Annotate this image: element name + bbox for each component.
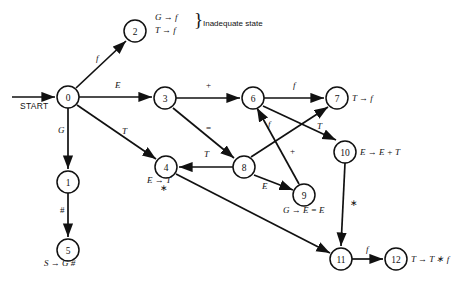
production-state-5: S → G # [44,258,75,268]
edge-label-4-star: ∗ [160,184,168,193]
brace-glyph: } [194,10,203,29]
node-label-10: 10 [340,148,350,158]
edge-label-3-plus: + [206,81,211,90]
edge-label-0-G: G [58,126,65,135]
node-label-11: 11 [336,255,345,265]
edge-label-0-E: E [115,81,121,90]
production-state-10: E → E + T [360,147,400,157]
edge-6-10 [263,106,336,140]
production-state-9: G → E = E [283,205,325,215]
diagram-svg: 0 1 2 3 4 5 6 7 8 9 10 11 12 [0,0,456,283]
edge-label-8-f: f [268,120,271,129]
edge-10-11 [341,163,345,246]
edge-label-3-eq: = [206,124,211,133]
inadequate-production-2: T → f [155,25,176,35]
edge-label-6-f: f [293,81,296,90]
node-label-0: 0 [66,93,71,103]
edge-label-10-star: ∗ [350,199,358,208]
inadequate-state-label: Inadequate state [203,19,263,28]
start-label: START [20,101,49,111]
node-label-2: 2 [133,27,138,37]
edge-label-8-E: E [262,182,268,191]
edge-label-0-f: f [96,54,99,63]
production-state-4: E → T [147,175,171,185]
edge-8-9 [254,175,293,190]
inadequate-production-1: G → f [155,12,178,22]
edge-layer [12,41,383,259]
edge-label-9-plus: + [290,147,295,156]
node-label-3: 3 [163,94,168,104]
node-label-1: 1 [66,178,71,188]
node-label-5: 5 [66,246,71,256]
production-state-12: T → T ∗ f [411,254,449,264]
node-label-4: 4 [164,163,169,173]
edge-0-4 [77,105,156,159]
production-state-7: T → f [352,93,373,103]
edge-label-0-T: T [122,127,127,136]
edge-label-6-T: T [317,122,322,131]
diagram-canvas: 0 1 2 3 4 5 6 7 8 9 10 11 12 START f E G… [0,0,456,283]
edge-label-11-f: f [366,245,369,254]
edge-label-8-T: T [204,150,209,159]
edge-label-1-hash: # [60,206,65,215]
node-label-6: 6 [251,94,256,104]
node-label-9: 9 [302,191,307,201]
node-label-7: 7 [335,94,340,104]
node-label-8: 8 [242,163,247,173]
node-label-12: 12 [391,255,401,265]
